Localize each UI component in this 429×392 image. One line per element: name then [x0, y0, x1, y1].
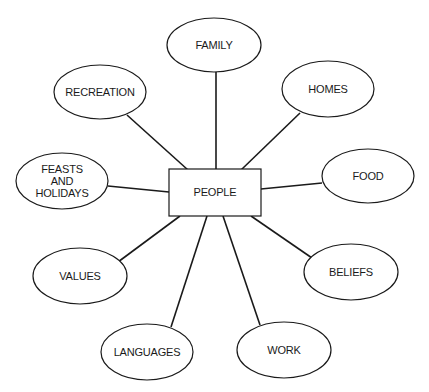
edge-food	[261, 183, 322, 189]
node-label: FOOD	[353, 170, 384, 182]
edge-beliefs	[251, 216, 312, 258]
edge-homes	[241, 113, 300, 170]
node-family: FAMILY	[167, 18, 261, 72]
node-recreation: RECREATION	[54, 65, 146, 119]
node-label: AND	[51, 175, 74, 187]
edge-languages	[171, 216, 207, 327]
center-node-people: PEOPLE	[169, 169, 261, 216]
node-label: FEASTS	[41, 163, 83, 175]
node-languages: LANGUAGES	[101, 324, 193, 380]
node-label: VALUES	[59, 270, 100, 282]
node-food: FOOD	[322, 149, 414, 203]
node-label: BELIEFS	[329, 266, 373, 278]
node-label: RECREATION	[65, 86, 135, 98]
edge-feasts-and-holidays	[108, 186, 169, 192]
node-values: VALUES	[33, 248, 127, 304]
node-work: WORK	[237, 322, 331, 378]
node-beliefs: BELIEFS	[304, 244, 398, 300]
node-label: WORK	[267, 344, 301, 356]
edge-recreation	[127, 115, 188, 170]
node-label: LANGUAGES	[114, 346, 181, 358]
node-feasts-and-holidays: FEASTSANDHOLIDAYS	[16, 153, 108, 209]
edge-values	[118, 216, 180, 262]
center-label: PEOPLE	[194, 186, 237, 198]
node-label: HOLIDAYS	[35, 187, 88, 199]
edge-work	[223, 216, 260, 325]
concept-map: FAMILYRECREATIONHOMESFEASTSANDHOLIDAYSFO…	[0, 0, 429, 392]
node-label: HOMES	[308, 83, 347, 95]
node-label: FAMILY	[195, 39, 233, 51]
node-homes: HOMES	[282, 61, 374, 117]
